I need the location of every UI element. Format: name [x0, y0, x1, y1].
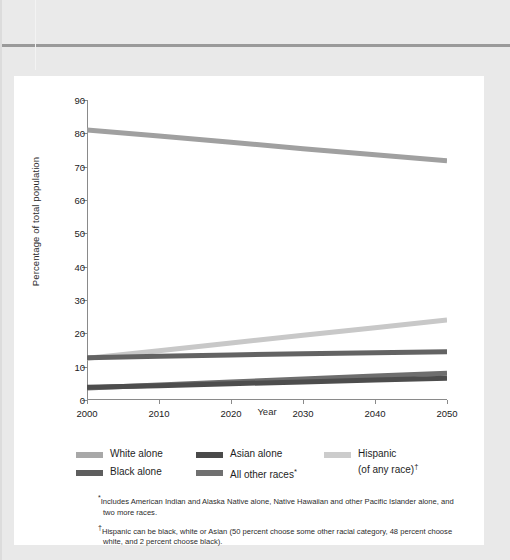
figure-card: Percentage of total population 010203040…: [14, 76, 484, 545]
footnote: †Hispanic can be black, white or Asian (…: [98, 522, 458, 548]
legend-label: Black alone: [110, 466, 162, 479]
legend-swatch-icon: [196, 452, 223, 458]
legend-item[interactable]: All other races*: [196, 466, 297, 482]
legend-item[interactable]: Hispanic(of any race)†: [324, 448, 418, 476]
y-tick-label: 10: [45, 361, 85, 372]
x-tick: [231, 400, 232, 404]
legend-label: Asian alone: [230, 448, 282, 461]
y-tick-label: 70: [45, 161, 85, 172]
legend-item[interactable]: Asian alone: [196, 448, 297, 461]
x-tick: [159, 400, 160, 404]
legend-swatch-icon: [324, 452, 351, 458]
footnote: *Includes American Indian and Alaska Nat…: [98, 492, 458, 518]
footnote-marker: *: [294, 467, 297, 476]
x-tick: [375, 400, 376, 404]
x-axis-title: Year: [87, 406, 447, 417]
footnote-marker: †: [414, 462, 418, 471]
legend-item[interactable]: White alone: [76, 448, 163, 461]
y-tick-label: 80: [45, 128, 85, 139]
x-tick: [303, 400, 304, 404]
y-tick-label: 90: [45, 95, 85, 106]
footnote-marker: *: [98, 494, 101, 501]
y-tick-label: 60: [45, 195, 85, 206]
footnotes: *Includes American Indian and Alaska Nat…: [98, 492, 458, 551]
y-tick-label: 30: [45, 295, 85, 306]
x-tick: [447, 400, 448, 404]
x-tick: [87, 400, 88, 404]
y-axis-title: Percentage of total population: [30, 127, 41, 317]
legend-column: White aloneBlack alone: [76, 448, 163, 483]
series-lines: [87, 100, 447, 400]
chart-plot-area: Percentage of total population 010203040…: [14, 76, 484, 426]
y-tick-label: 50: [45, 228, 85, 239]
legend-label: White alone: [110, 448, 163, 461]
legend-swatch-icon: [76, 470, 103, 476]
legend-column: Asian aloneAll other races*: [196, 448, 297, 486]
legend-column: Hispanic(of any race)†: [324, 448, 418, 481]
plot-canvas: 0102030405060708090 20002010202020302040…: [87, 100, 447, 400]
y-tick-label: 20: [45, 328, 85, 339]
y-tick-label: 0: [45, 395, 85, 406]
legend-item[interactable]: Black alone: [76, 466, 163, 479]
legend-swatch-icon: [76, 452, 103, 458]
footnote-marker: †: [98, 524, 102, 531]
legend-label: All other races*: [230, 466, 297, 482]
legend-swatch-icon: [196, 470, 223, 476]
series-line-white-alone: [87, 130, 447, 161]
y-tick-label: 40: [45, 261, 85, 272]
legend-label: Hispanic(of any race)†: [358, 448, 418, 476]
